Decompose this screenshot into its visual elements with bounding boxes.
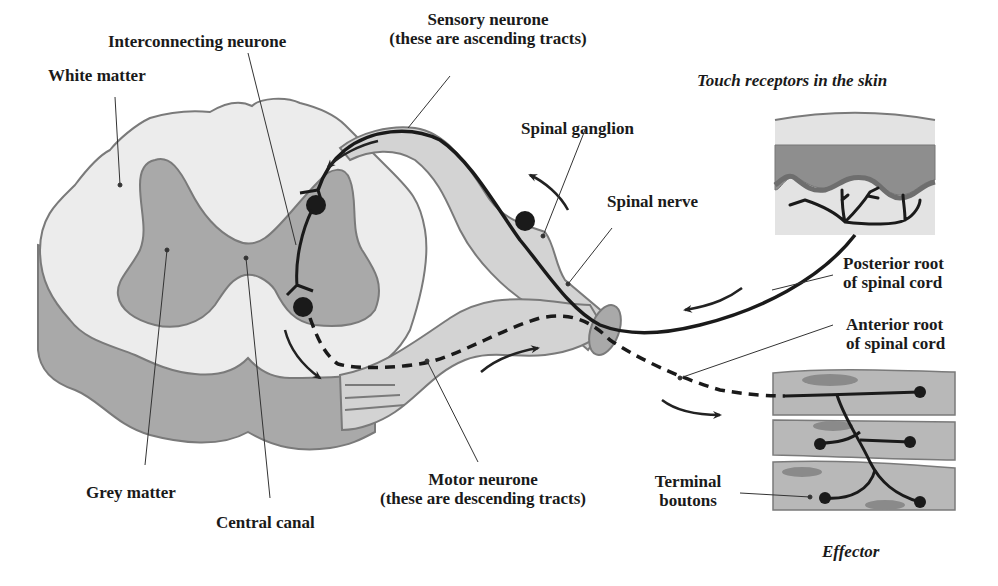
reflex-arc-diagram: White matter Interconnecting neurone Sen… bbox=[0, 0, 998, 586]
motor-neurone-note: (these are descending tracts) bbox=[358, 489, 608, 508]
sensory-neurone-title: Sensory neurone bbox=[368, 10, 608, 29]
label-sensory-neurone: Sensory neurone (these are ascending tra… bbox=[368, 10, 608, 48]
label-posterior-root: Posterior root of spinal cord bbox=[843, 254, 944, 292]
label-spinal-nerve: Spinal nerve bbox=[607, 192, 698, 211]
anterior-root-line1: Anterior root bbox=[846, 315, 945, 334]
skin-section bbox=[775, 113, 935, 236]
arrow-icon bbox=[530, 175, 568, 210]
label-white-matter: White matter bbox=[48, 66, 146, 85]
arrow-icon bbox=[685, 288, 742, 310]
posterior-root-line1: Posterior root bbox=[843, 254, 944, 273]
sensory-cell-body bbox=[515, 211, 535, 231]
label-central-canal: Central canal bbox=[216, 513, 315, 532]
label-spinal-ganglion: Spinal ganglion bbox=[521, 119, 634, 138]
posterior-root-line2: of spinal cord bbox=[843, 273, 944, 292]
label-interconnecting-neurone: Interconnecting neurone bbox=[108, 32, 286, 51]
anterior-root-line2: of spinal cord bbox=[846, 334, 945, 353]
sensory-neurone-note: (these are ascending tracts) bbox=[368, 29, 608, 48]
arrow-icon bbox=[662, 400, 720, 415]
label-terminal-boutons: Terminal boutons bbox=[648, 472, 728, 510]
label-effector: Effector bbox=[822, 542, 879, 561]
motor-cell-body bbox=[293, 297, 313, 317]
label-motor-neurone: Motor neurone (these are descending trac… bbox=[358, 470, 608, 508]
motor-neurone-title: Motor neurone bbox=[358, 470, 608, 489]
terminal-boutons-line2: boutons bbox=[648, 491, 728, 510]
label-touch-receptors: Touch receptors in the skin bbox=[697, 71, 887, 90]
label-grey-matter: Grey matter bbox=[86, 483, 176, 502]
terminal-boutons-line1: Terminal bbox=[648, 472, 728, 491]
label-anterior-root: Anterior root of spinal cord bbox=[846, 315, 945, 353]
